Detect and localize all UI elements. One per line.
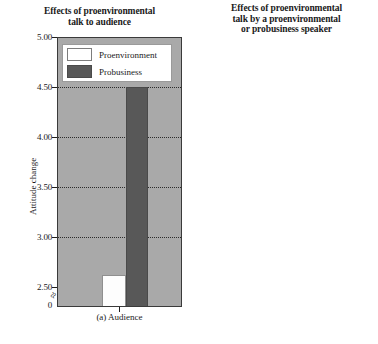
legend-row-proenvironment: Proenvironment bbox=[67, 48, 166, 61]
chart-a-gridline-450 bbox=[58, 87, 181, 88]
chart-panel-a: Effects of proenvironmental talk to audi… bbox=[0, 0, 189, 344]
chart-a-gridline-350 bbox=[58, 187, 181, 188]
legend-row-probusiness: Probusiness bbox=[67, 65, 166, 78]
chart-a-ytick-450: 4.50 bbox=[26, 82, 52, 92]
chart-a-gridline-300 bbox=[58, 237, 181, 238]
chart-a-ytick-350: 3.50 bbox=[26, 182, 52, 192]
legend-swatch-proenvironment-icon bbox=[67, 48, 92, 61]
chart-a-title-line1: Effects of proenvironmental bbox=[14, 6, 185, 17]
chart-a-x-caption: (a) Audience bbox=[57, 312, 182, 322]
chart-panel-b: Effects of proenvironmental talk by a pr… bbox=[189, 0, 378, 344]
legend-swatch-probusiness-icon bbox=[67, 65, 92, 78]
chart-a-legend: Proenvironment Probusiness bbox=[62, 44, 172, 82]
chart-a-title: Effects of proenvironmental talk to audi… bbox=[14, 6, 185, 27]
chart-a-gridline-400 bbox=[58, 137, 181, 138]
chart-a-bar-proenvironment bbox=[102, 275, 126, 306]
chart-a-ytick-500: 5.00 bbox=[26, 32, 52, 42]
legend-label-probusiness: Probusiness bbox=[99, 67, 142, 77]
chart-a-title-line2: talk to audience bbox=[14, 17, 185, 28]
chart-b-title-line2: talk by a proenvironmental bbox=[199, 14, 374, 25]
chart-a-ytick-400: 4.00 bbox=[26, 132, 52, 142]
chart-b-title-line1: Effects of proenvironmental bbox=[199, 3, 374, 14]
chart-a-ytick-zero: 0 bbox=[26, 300, 52, 310]
legend-label-proenvironment: Proenvironment bbox=[99, 50, 157, 60]
chart-b-title: Effects of proenvironmental talk by a pr… bbox=[199, 3, 374, 35]
chart-b-title-line3: or probusiness speaker bbox=[199, 24, 374, 35]
chart-a-bar-probusiness bbox=[126, 87, 148, 306]
figure-two-bar-charts: Effects of proenvironmental talk to audi… bbox=[0, 0, 378, 344]
chart-a-ytick-300: 3.00 bbox=[26, 232, 52, 242]
